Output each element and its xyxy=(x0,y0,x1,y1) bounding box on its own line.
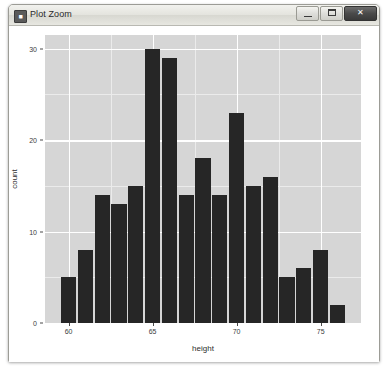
window-titlebar[interactable]: ■ Plot Zoom ✕ xyxy=(9,5,379,26)
x-tick-mark xyxy=(237,323,238,326)
histogram-bar xyxy=(195,158,210,323)
gridline-major-horizontal xyxy=(45,140,361,141)
x-axis-label: height xyxy=(192,344,214,353)
y-tick-mark xyxy=(40,231,43,232)
histogram-bar xyxy=(263,177,278,323)
histogram-bar xyxy=(246,186,261,323)
histogram-bar xyxy=(179,195,194,323)
y-axis: 0102030 xyxy=(23,35,43,323)
histogram-bar xyxy=(95,195,110,323)
x-tick-label: 70 xyxy=(233,328,241,335)
y-tick-label: 30 xyxy=(29,45,37,52)
maximize-icon xyxy=(328,9,336,16)
maximize-button[interactable] xyxy=(320,6,343,21)
histogram-bar xyxy=(296,268,311,323)
x-tick-label: 75 xyxy=(317,328,325,335)
y-tick-mark xyxy=(40,48,43,49)
y-tick-label: 20 xyxy=(29,137,37,144)
histogram-bar xyxy=(128,186,143,323)
histogram-bar xyxy=(61,277,76,323)
gridline-major-horizontal xyxy=(45,49,361,50)
y-tick-label: 10 xyxy=(29,228,37,235)
y-tick-label: 0 xyxy=(33,320,37,327)
close-icon: ✕ xyxy=(357,8,364,17)
histogram-bar xyxy=(229,113,244,323)
gridline-minor-horizontal xyxy=(45,94,361,95)
x-tick-mark xyxy=(153,323,154,326)
histogram-bar xyxy=(111,204,126,323)
plot-window-icon: ■ xyxy=(14,10,27,23)
window-client-area: 0102030 60657075 count height xyxy=(9,26,379,362)
histogram-bar xyxy=(313,250,328,323)
x-tick-mark xyxy=(69,323,70,326)
window-title: Plot Zoom xyxy=(30,9,72,19)
window-controls: ✕ xyxy=(296,6,377,21)
histogram-bar xyxy=(162,58,177,323)
minimize-icon xyxy=(304,16,312,17)
minimize-button[interactable] xyxy=(296,6,319,21)
x-tick-label: 65 xyxy=(149,328,157,335)
histogram-plot: 0102030 60657075 count height xyxy=(9,26,379,362)
plot-panel xyxy=(45,35,361,323)
y-tick-mark xyxy=(40,140,43,141)
y-axis-label: count xyxy=(10,169,19,189)
close-button[interactable]: ✕ xyxy=(344,6,377,21)
histogram-bar xyxy=(145,49,160,323)
histogram-bar xyxy=(279,277,294,323)
x-tick-mark xyxy=(321,323,322,326)
histogram-bar xyxy=(212,195,227,323)
plot-zoom-window: ■ Plot Zoom ✕ 0102030 60657075 count hei… xyxy=(8,4,380,362)
histogram-bar xyxy=(78,250,93,323)
histogram-bar xyxy=(330,305,345,323)
x-tick-label: 60 xyxy=(65,328,73,335)
y-tick-mark xyxy=(40,323,43,324)
x-axis: 60657075 xyxy=(45,323,361,339)
